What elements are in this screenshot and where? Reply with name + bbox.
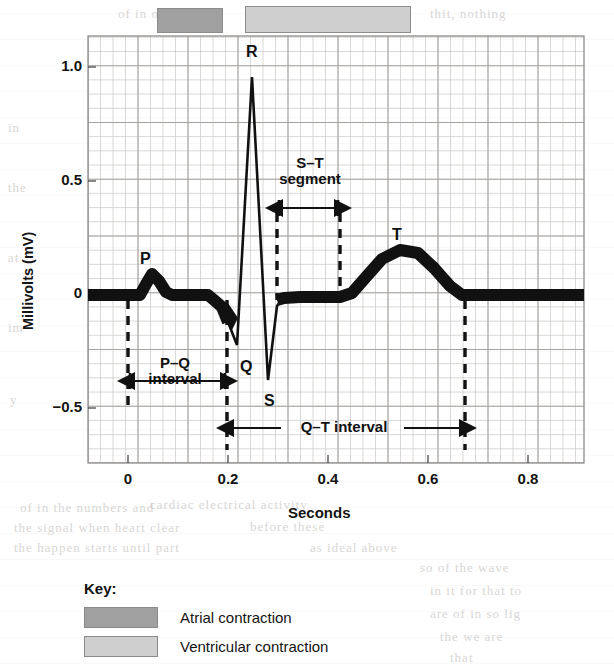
xtick-2: 0.2 [205,470,251,487]
ytick-2: 0.5 [20,171,82,188]
xtick-3: 0.4 [305,470,351,487]
wave-label-s: S [264,392,275,410]
key-swatch-atrial [84,607,158,628]
minor-gridlines [88,36,584,463]
wave-label-t: T [392,226,402,244]
wave-label-r: R [246,43,258,61]
wave-label-p: P [140,250,151,268]
interval-arrows [133,208,461,428]
key-label-atrial: Atrial contraction [180,609,292,626]
ecg-plot [0,0,614,664]
st-segment-line2: segment [279,170,341,187]
y-axis-label-wrap: Millivolts (mV) [2,170,24,340]
wave-label-q: Q [240,358,252,376]
major-gridlines [88,36,584,463]
qt-interval-annotation: Q–T interval [286,419,402,435]
ecg-figure: of in onethit, nothingintheatimycardiac … [0,0,614,664]
xtick-1: 0 [108,470,148,487]
axis-ticks [88,67,528,463]
pq-interval-line1: P–Q [160,354,190,371]
pq-interval-line2: interval [148,370,201,387]
key-title: Key: [84,580,117,597]
ytick-1: 1.0 [20,57,82,74]
key-item-ventricular: Ventricular contraction [84,636,328,657]
st-segment-line1: S–T [296,154,324,171]
xtick-5: 0.8 [505,470,551,487]
x-axis-label: Seconds [288,504,351,521]
key-item-atrial: Atrial contraction [84,607,292,628]
pq-interval-annotation: P–Q interval [128,355,222,387]
key-swatch-ventricular [84,636,158,657]
y-axis-label: Millivolts (mV) [20,232,36,330]
xtick-4: 0.6 [405,470,451,487]
plot-frame [88,36,584,463]
key-label-ventricular: Ventricular contraction [180,638,328,655]
st-segment-annotation: S–T segment [262,155,358,187]
ytick-4: −0.5 [10,398,82,415]
